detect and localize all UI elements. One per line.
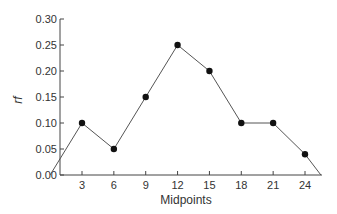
frequency-polygon-chart: 0.000.050.100.150.200.250.30 36912151821… [0, 0, 337, 214]
y-tick-label: 0.00 [36, 169, 57, 181]
data-point-marker [206, 68, 212, 74]
y-tick-label: 0.15 [36, 91, 57, 103]
x-tick-label: 3 [79, 179, 85, 191]
x-tick-label: 12 [171, 179, 183, 191]
data-point-marker [174, 42, 180, 48]
y-tick-label: 0.25 [36, 39, 57, 51]
data-point-marker [270, 120, 276, 126]
data-point-marker [79, 120, 85, 126]
y-tick-label: 0.10 [36, 117, 57, 129]
data-point-marker [302, 151, 308, 157]
data-point-marker [111, 146, 117, 152]
data-markers [79, 42, 308, 158]
y-tick-label: 0.05 [36, 143, 57, 155]
series-line [50, 45, 321, 175]
x-tick-label: 15 [203, 179, 215, 191]
y-tick-label: 0.30 [36, 13, 57, 25]
data-point-marker [238, 120, 244, 126]
x-tick-label: 18 [235, 179, 247, 191]
x-tick-label: 9 [143, 179, 149, 191]
data-point-marker [143, 94, 149, 100]
x-tick-label: 6 [111, 179, 117, 191]
x-tick-label: 21 [267, 179, 279, 191]
y-axis-title: rf [11, 95, 25, 104]
y-tick-label: 0.20 [36, 65, 57, 77]
x-axis-ticks: 3691215182124 [79, 171, 311, 191]
x-axis-title: Midpoints [160, 193, 211, 207]
axes [60, 19, 322, 175]
x-tick-label: 24 [299, 179, 311, 191]
